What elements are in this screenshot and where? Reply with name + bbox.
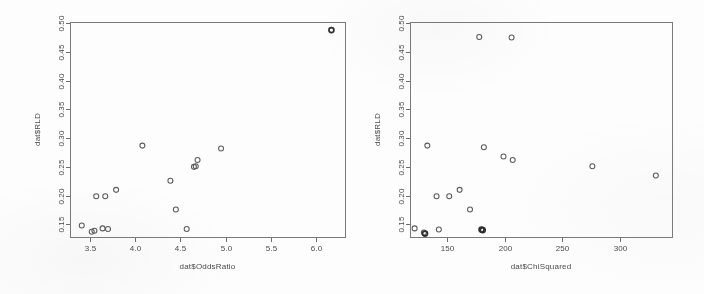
data-point [653,173,658,178]
x-tick-label: 3.5 [85,244,97,253]
data-point [425,143,430,148]
data-point [501,154,506,159]
y-tick-label: 0.30 [57,130,66,146]
data-point [140,143,145,148]
data-point [168,178,173,183]
x-axis-title: dat$OddsRatio [180,262,236,271]
scatter-panel-chi-squared: 1502002503000.150.200.250.300.350.400.45… [352,0,704,294]
x-tick-label: 200 [499,244,513,253]
data-point [468,207,473,212]
data-point [510,157,515,162]
data-point [436,227,441,232]
y-tick-label: 0.30 [397,130,406,146]
data-point [184,226,189,231]
x-tick-label: 250 [556,244,570,253]
y-tick-label: 0.25 [397,159,406,175]
y-tick-label: 0.40 [397,73,406,89]
y-tick-label: 0.45 [397,44,406,60]
y-tick-label: 0.45 [57,44,66,60]
x-tick-label: 5.5 [266,244,278,253]
y-tick-label: 0.50 [397,15,406,31]
y-axis-title: dat$RLD [33,113,42,146]
x-tick-label: 5.0 [221,244,233,253]
y-tick-label: 0.35 [57,101,66,117]
x-tick-label: 4.5 [175,244,187,253]
scatter-plot-left-svg: 3.54.04.55.05.56.00.150.200.250.300.350.… [0,0,352,294]
x-axis-title: dat$ChiSquared [511,262,572,271]
data-point [412,226,417,231]
data-point [79,223,84,228]
y-tick-label: 0.25 [57,159,66,175]
data-point [477,34,482,39]
scatter-plot-right-svg: 1502002503000.150.200.250.300.350.400.45… [352,0,704,294]
figure-canvas: 3.54.04.55.05.56.00.150.200.250.300.350.… [0,0,704,294]
x-tick-label: 4.0 [130,244,142,253]
y-tick-label: 0.50 [57,15,66,31]
x-tick-label: 6.0 [311,244,323,253]
data-point [480,228,485,233]
data-point [94,194,99,199]
y-tick-label: 0.35 [397,101,406,117]
data-point [457,187,462,192]
y-tick-label: 0.15 [397,216,406,232]
data-point [590,164,595,169]
data-point [434,194,439,199]
data-point [329,28,334,33]
y-tick-label: 0.20 [397,188,406,204]
y-tick-label: 0.15 [57,216,66,232]
x-tick-label: 300 [614,244,628,253]
data-point [481,145,486,150]
data-point [173,207,178,212]
y-tick-label: 0.40 [57,73,66,89]
y-axis-title: dat$RLD [373,113,382,146]
data-point [447,194,452,199]
y-tick-label: 0.20 [57,188,66,204]
data-point [105,226,110,231]
x-tick-label: 150 [441,244,455,253]
data-point [423,231,428,236]
data-point [100,226,105,231]
data-point [195,157,200,162]
data-point [509,35,514,40]
data-point [103,194,108,199]
scatter-panel-odds-ratio: 3.54.04.55.05.56.00.150.200.250.300.350.… [0,0,352,294]
data-point [219,146,224,151]
data-point [114,187,119,192]
